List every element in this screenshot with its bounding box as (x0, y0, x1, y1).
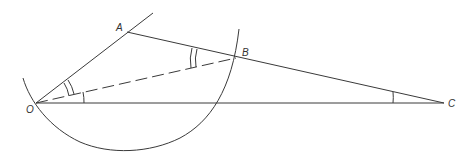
label-b: B (242, 47, 249, 58)
angle-mark-o-boc (83, 92, 84, 103)
line-ac (127, 32, 444, 103)
circle-arc (23, 29, 239, 151)
angle-mark-b-2 (195, 49, 197, 67)
label-c: C (448, 98, 456, 109)
geometry-diagram: O A B C (0, 0, 475, 158)
angle-mark-o-aob-2 (68, 80, 74, 94)
label-o: O (26, 104, 34, 115)
label-a: A (115, 22, 123, 33)
angle-mark-o-aob-1 (64, 83, 69, 96)
angle-mark-b-1 (190, 48, 192, 68)
